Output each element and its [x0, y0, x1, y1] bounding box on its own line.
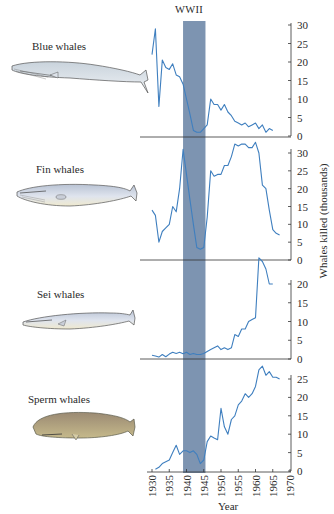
panel-baselines: [140, 137, 291, 472]
svg-text:25: 25: [297, 38, 309, 50]
svg-text:25: 25: [297, 373, 309, 385]
svg-text:5: 5: [297, 334, 303, 346]
svg-text:5: 5: [297, 447, 303, 459]
svg-text:1955: 1955: [232, 475, 244, 498]
sperm-whale-illustration: [33, 412, 135, 440]
svg-text:1930: 1930: [146, 475, 158, 498]
svg-text:15: 15: [297, 297, 309, 309]
svg-text:0: 0: [297, 465, 303, 477]
svg-text:1950: 1950: [215, 475, 227, 498]
whale-catch-figure: 0510152025300510152025300510152005101520…: [0, 0, 334, 514]
svg-text:10: 10: [297, 428, 309, 440]
blue-whale-illustration: [12, 62, 148, 93]
species-label-fin: Fin whales: [36, 163, 84, 175]
wwii-band: [183, 21, 205, 473]
x-axis: 193019351940194519501955196019651970: [146, 469, 296, 497]
y-axis-label: Whales killed (thousands): [317, 146, 329, 296]
svg-text:1970: 1970: [284, 475, 296, 498]
y-axes: 0510152025300510152025300510152005101520…: [288, 19, 309, 477]
svg-text:0: 0: [297, 353, 303, 365]
series-fin-whales: [152, 142, 280, 249]
svg-text:5: 5: [297, 236, 303, 248]
sei-whale-illustration: [23, 310, 135, 329]
svg-text:1940: 1940: [181, 475, 193, 498]
svg-text:15: 15: [297, 201, 309, 213]
svg-text:1960: 1960: [250, 475, 262, 498]
svg-text:20: 20: [297, 56, 309, 68]
svg-text:0: 0: [297, 254, 303, 266]
svg-text:10: 10: [297, 316, 309, 328]
svg-text:10: 10: [297, 218, 309, 230]
svg-text:20: 20: [297, 183, 309, 195]
svg-text:15: 15: [297, 410, 309, 422]
svg-text:20: 20: [297, 278, 309, 290]
svg-text:20: 20: [297, 391, 309, 403]
fin-whale-illustration: [17, 184, 137, 206]
data-lines: [152, 29, 280, 470]
species-label-sperm: Sperm whales: [28, 393, 90, 405]
x-axis-label: Year: [218, 500, 238, 512]
series-sei-whales: [152, 258, 273, 357]
svg-text:30: 30: [297, 147, 309, 159]
svg-text:1965: 1965: [267, 475, 279, 498]
series-sperm-whales: [155, 366, 279, 469]
svg-text:10: 10: [297, 93, 309, 105]
svg-text:1945: 1945: [198, 475, 210, 498]
svg-text:25: 25: [297, 165, 309, 177]
series-blue-whales: [152, 29, 273, 133]
wwii-annotation: WWII: [175, 4, 203, 15]
svg-text:30: 30: [297, 19, 309, 31]
svg-text:1935: 1935: [163, 475, 175, 498]
species-label-blue: Blue whales: [32, 40, 86, 52]
svg-text:0: 0: [297, 130, 303, 142]
species-label-sei: Sei whales: [37, 288, 84, 300]
svg-text:5: 5: [297, 112, 303, 124]
svg-text:15: 15: [297, 75, 309, 87]
